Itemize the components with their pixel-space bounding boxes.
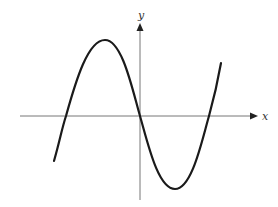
y-axis-label: y xyxy=(137,9,145,22)
function-graph: x y xyxy=(0,0,278,207)
x-axis-label: x xyxy=(262,110,269,123)
x-axis-arrow-icon xyxy=(250,113,258,120)
function-curve xyxy=(54,40,221,189)
y-axis-arrow-icon xyxy=(137,23,144,31)
